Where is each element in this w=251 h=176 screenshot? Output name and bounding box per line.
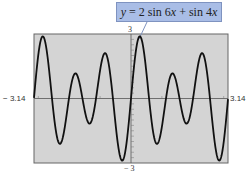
ymax-label: 3: [128, 25, 132, 34]
xmin-label: − 3.14: [3, 94, 25, 103]
ymin-label: − 3: [124, 164, 135, 173]
xmax-label: 3.14: [230, 94, 246, 103]
eq-plus: +: [179, 5, 186, 20]
eq-term2: sin 4: [189, 5, 212, 20]
eq-x1: x: [171, 5, 176, 20]
eq-term1: 2 sin 6: [139, 5, 171, 20]
equation-callout: y = 2 sin 6x + sin 4x: [116, 2, 222, 22]
eq-y: y: [121, 5, 126, 20]
eq-x2: x: [212, 5, 217, 20]
eq-equals: =: [129, 5, 136, 20]
function-plot: [0, 0, 251, 176]
